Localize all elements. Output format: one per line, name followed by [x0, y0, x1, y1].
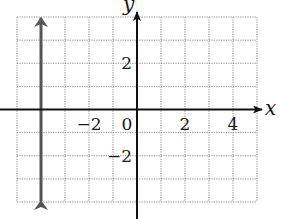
- x-tick-label: 0: [122, 114, 133, 134]
- x-tick-label: −2: [76, 114, 101, 134]
- coordinate-plane: −20242−2 x y: [0, 0, 281, 219]
- y-axis-label: y: [122, 0, 135, 16]
- x-tick-label: 2: [180, 114, 191, 134]
- y-tick-label: −2: [107, 146, 132, 166]
- y-tick-label: 2: [121, 53, 132, 73]
- x-axis-label: x: [265, 96, 276, 120]
- x-tick-label: 4: [228, 114, 239, 134]
